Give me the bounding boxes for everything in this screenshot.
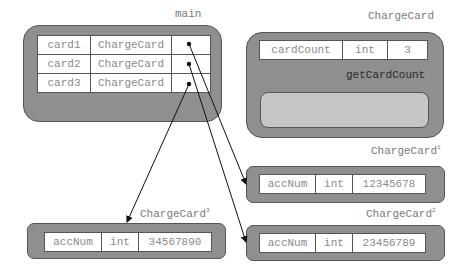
object-index: 1	[437, 144, 441, 151]
object3-title: ChargeCard3	[140, 208, 210, 220]
object1-field-table: accNum int 12345678	[259, 174, 426, 194]
reference-cell	[172, 55, 211, 74]
field-value: 23456789	[353, 234, 426, 253]
object2-title: ChargeCard2	[366, 208, 436, 220]
object1-title: ChargeCard1	[371, 145, 441, 157]
main-title: main	[175, 8, 201, 20]
reference-cell	[172, 36, 211, 55]
field-value: 34567890	[139, 233, 212, 252]
field-name: accNum	[45, 233, 102, 252]
field-type: int	[316, 234, 353, 253]
field-name: accNum	[260, 175, 316, 194]
static-field-table: cardCount int 3	[259, 40, 428, 60]
field-type: int	[343, 41, 388, 60]
field-name: cardCount	[260, 41, 343, 60]
field-type: int	[102, 233, 139, 252]
field-name: accNum	[260, 234, 316, 253]
object-title-text: ChargeCard	[366, 208, 432, 220]
method-name: getCardCount	[346, 69, 425, 81]
object-title-text: ChargeCard	[140, 208, 206, 220]
object2-field-table: accNum int 23456789	[259, 233, 426, 253]
table-row: card1 ChargeCard	[38, 36, 211, 55]
table-row: accNum int 34567890	[45, 233, 212, 252]
var-type: ChargeCard	[91, 55, 172, 74]
table-row: card2 ChargeCard	[38, 55, 211, 74]
object-index: 3	[206, 207, 210, 214]
object-index: 2	[432, 207, 436, 214]
table-row: accNum int 23456789	[260, 234, 426, 253]
reference-cell	[172, 74, 211, 93]
object3-field-table: accNum int 34567890	[44, 232, 212, 252]
object-title-text: ChargeCard	[371, 145, 437, 157]
var-type: ChargeCard	[91, 36, 172, 55]
field-type: int	[316, 175, 353, 194]
table-row: accNum int 12345678	[260, 175, 426, 194]
main-variables-table: card1 ChargeCard card2 ChargeCard card3 …	[37, 35, 211, 93]
method-body	[260, 92, 429, 128]
field-value: 3	[388, 41, 428, 60]
table-row: cardCount int 3	[260, 41, 428, 60]
field-value: 12345678	[353, 175, 426, 194]
var-name: card2	[38, 55, 91, 74]
class-title: ChargeCard	[368, 10, 434, 22]
var-name: card1	[38, 36, 91, 55]
var-name: card3	[38, 74, 91, 93]
table-row: card3 ChargeCard	[38, 74, 211, 93]
var-type: ChargeCard	[91, 74, 172, 93]
